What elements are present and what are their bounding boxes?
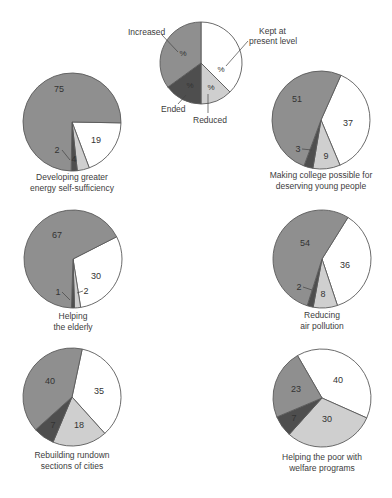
legend-percent-increased: % [179,49,186,58]
legend-percent-reduced: % [207,83,214,92]
pie-college-value-ended: 3 [295,144,300,154]
caption-line-2: air pollution [252,321,392,332]
pie-energy-value-kept: 19 [91,135,101,145]
pie-caption-cities: Rebuilding rundownsections of cities [2,450,142,471]
pie-welfare-value-kept: 40 [333,375,343,385]
pie-air-value-reduced: 8 [320,289,325,299]
pie-cities-value-ended: 7 [50,420,55,430]
caption-line-1: Developing greater [2,172,142,183]
caption-line-1: Helping [3,311,143,322]
pie-elderly-value-reduced: 2 [83,286,88,296]
legend-label-kept-line2: present level [249,36,297,46]
caption-line-2: welfare programs [252,463,392,474]
pie-welfare-value-ended: 7 [291,413,296,423]
pie-cities-value-reduced: 18 [74,420,84,430]
pie-caption-air: Reducingair pollution [252,310,392,331]
pie-elderly-value-increased: 67 [52,230,62,240]
pie-caption-elderly: Helpingthe elderly [3,311,143,332]
caption-line-1: Making college possible for [251,170,391,181]
pie-energy-value-increased: 75 [54,84,64,94]
pie-air-value-ended: 2 [296,282,301,292]
pie-energy-value-ended: 2 [54,145,59,155]
pie-charts-canvas: %%%%751942513793673021543682403518723403… [0,0,392,498]
pie-chart-figure: %%%%751942513793673021543682403518723403… [0,0,392,498]
pie-welfare-value-reduced: 30 [322,414,332,424]
pie-college-value-increased: 51 [292,94,302,104]
pie-caption-college: Making college possible fordeserving you… [251,170,391,191]
pie-caption-welfare: Helping the poor withwelfare programs [252,452,392,473]
pie-college-value-reduced: 9 [323,151,328,161]
legend-label-ended: Ended [161,104,186,114]
pie-elderly-value-ended: 1 [55,287,60,297]
legend-label-kept-line1: Kept at [259,26,286,36]
legend-label-reduced: Reduced [193,115,227,125]
caption-line-1: Reducing [252,310,392,321]
caption-line-1: Helping the poor with [252,452,392,463]
caption-line-2: sections of cities [2,461,142,472]
caption-line-2: deserving young people [251,181,391,192]
caption-line-2: the elderly [3,322,143,333]
pie-cities-value-increased: 40 [45,376,55,386]
pie-air-value-increased: 54 [300,238,310,248]
pie-cities-value-kept: 35 [94,386,104,396]
pie-air-value-kept: 36 [340,260,350,270]
pie-elderly-value-kept: 30 [91,271,101,281]
pie-welfare-value-increased: 23 [291,384,301,394]
caption-line-2: energy self-sufficiency [2,183,142,194]
legend-percent-kept: % [217,65,224,74]
legend-label-increased: Increased [128,27,165,37]
legend-percent-ended: % [186,81,193,90]
caption-line-1: Rebuilding rundown [2,450,142,461]
pie-college-value-kept: 37 [343,118,353,128]
pie-caption-energy: Developing greaterenergy self-sufficienc… [2,172,142,193]
pie-energy-value-reduced: 4 [71,154,76,164]
